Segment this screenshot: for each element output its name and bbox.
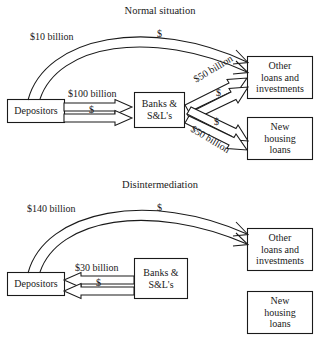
box-banks-normal (135, 93, 185, 128)
flow-label-depositors-to-banks-marker: $ (89, 105, 94, 116)
box-banks-disintermediation (135, 259, 188, 299)
diagram-canvas: Normal situation Depositors Banks & S&L'… (0, 0, 317, 343)
flow-label-banks-to-housing-marker: $ (214, 117, 219, 128)
panel-title-disintermediation: Disintermediation (95, 179, 225, 190)
flow-label-depositors-to-banks-amount: $100 billion (68, 89, 117, 100)
flow-depositors-to-banks-normal (64, 100, 132, 126)
flow-label-arc-disintermediation-marker: $ (157, 203, 162, 214)
box-other-loans-normal (248, 57, 313, 99)
flow-label-arc-normal-amount: $10 billion (30, 32, 74, 43)
panel-title-normal: Normal situation (95, 5, 225, 16)
flow-label-arc-disintermediation-amount: $140 billion (27, 204, 76, 215)
flow-label-banks-to-depositors-marker: $ (96, 278, 101, 289)
flow-label-arc-normal-marker: $ (157, 29, 162, 40)
box-depositors-disintermediation (8, 273, 65, 296)
box-other-loans-disintermediation (248, 229, 313, 271)
box-new-housing-normal (248, 118, 313, 160)
box-depositors-normal (8, 100, 65, 123)
flow-label-banks-to-other-marker: $ (216, 88, 221, 99)
diagram-vector-layer (0, 0, 317, 343)
flow-label-banks-to-depositors-amount: $30 billion (75, 263, 119, 274)
box-new-housing-disintermediation (248, 292, 313, 334)
